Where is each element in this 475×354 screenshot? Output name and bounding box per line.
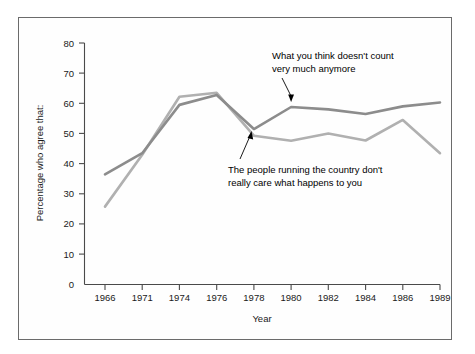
x-axis-title: Year [252, 313, 271, 324]
y-tick-label-80: 80 [63, 38, 74, 49]
x-tick-label-1978: 1978 [243, 292, 264, 303]
x-tick-label-1986: 1986 [392, 292, 413, 303]
y-axis-tick-labels: 80 70 60 50 40 30 20 10 0 [63, 38, 74, 291]
lower-annotation-line2: really care what happens to you [228, 177, 362, 188]
y-tick-label-70: 70 [63, 68, 74, 79]
y-tick-label-60: 60 [63, 98, 74, 109]
upper-annotation-line2: very much anymore [272, 63, 355, 74]
x-tick-label-1974: 1974 [169, 292, 190, 303]
line-chart: 80 70 60 50 40 30 20 10 0 1966 1971 [0, 0, 475, 354]
y-tick-label-0: 0 [69, 279, 74, 290]
x-axis-ticks [105, 285, 440, 291]
lower-annotation-line1: The people running the country don't [228, 164, 383, 175]
y-tick-label-20: 20 [63, 218, 74, 229]
x-tick-label-1982: 1982 [318, 292, 339, 303]
y-tick-label-10: 10 [63, 249, 74, 260]
y-tick-label-30: 30 [63, 188, 74, 199]
x-tick-label-1984: 1984 [355, 292, 376, 303]
upper-annotation-line1: What you think doesn't count [272, 50, 394, 61]
x-tick-label-1989: 1989 [429, 292, 450, 303]
lower-annotation-leader [240, 131, 253, 159]
x-tick-label-1966: 1966 [94, 292, 115, 303]
x-tick-label-1976: 1976 [206, 292, 227, 303]
figure-canvas: 80 70 60 50 40 30 20 10 0 1966 1971 [0, 0, 475, 354]
y-tick-label-50: 50 [63, 128, 74, 139]
x-axis-tick-labels: 1966 1971 1974 1976 1978 1980 1982 1984 … [94, 292, 450, 303]
x-tick-label-1980: 1980 [281, 292, 302, 303]
series-line-dark [105, 95, 440, 174]
upper-leader-line [282, 78, 291, 96]
x-tick-label-1971: 1971 [132, 292, 153, 303]
y-tick-label-40: 40 [63, 158, 74, 169]
y-axis-title: Percentage who agree that: [34, 105, 45, 222]
upper-annotation-leader [282, 78, 294, 102]
lower-leader-line [240, 136, 250, 159]
y-axis-ticks [79, 43, 85, 254]
upper-arrow-head [288, 95, 294, 103]
